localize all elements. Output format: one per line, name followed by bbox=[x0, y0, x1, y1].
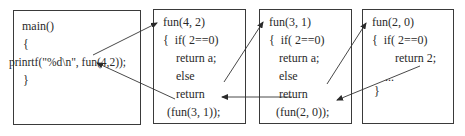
fun-2-0-header: fun(2, 0) bbox=[372, 15, 414, 29]
fun-3-1-header: fun(3, 1) bbox=[269, 15, 311, 29]
fun-3-1-box: fun(3, 1) { if( 2==0) return a; else ret… bbox=[259, 9, 352, 124]
main-printf-statement: prinrtf("%d\n", fun(4,2)); bbox=[9, 55, 126, 69]
fun-2-0-box: fun(2, 0) { if( 2==0) return 2; ... } bbox=[362, 9, 454, 124]
fun-3-1-recursive-call: (fun(2, 0)); bbox=[276, 105, 329, 119]
fun-4-2-box: fun(4, 2) { if( 2==0) return a; else ret… bbox=[153, 9, 246, 124]
fun-4-2-header: fun(4, 2) bbox=[163, 15, 205, 29]
fun-2-0-return-2: return 2; bbox=[395, 51, 436, 65]
fun-2-0-ellipsis: ... bbox=[385, 70, 394, 84]
fun-3-1-if: { if( 2==0) bbox=[269, 33, 325, 47]
main-header: main() bbox=[22, 19, 54, 33]
fun-4-2-return: return bbox=[176, 87, 205, 101]
fun-2-0-close-brace: } bbox=[374, 84, 380, 98]
fun-3-1-else: else bbox=[279, 69, 298, 83]
main-close-brace: } bbox=[23, 73, 29, 87]
fun-3-1-return: return bbox=[279, 87, 308, 101]
fun-4-2-return-a: return a; bbox=[176, 51, 216, 65]
fun-2-0-if: { if( 2==0) bbox=[372, 33, 428, 47]
fun-3-1-return-a: return a; bbox=[279, 51, 319, 65]
fun-4-2-recursive-call: (fun(3, 1)); bbox=[167, 105, 220, 119]
fun-4-2-if: { if( 2==0) bbox=[163, 33, 219, 47]
fun-4-2-else: else bbox=[176, 69, 195, 83]
main-function-box: main() { prinrtf("%d\n", fun(4,2)); } bbox=[13, 10, 141, 125]
main-open-brace: { bbox=[23, 37, 29, 51]
